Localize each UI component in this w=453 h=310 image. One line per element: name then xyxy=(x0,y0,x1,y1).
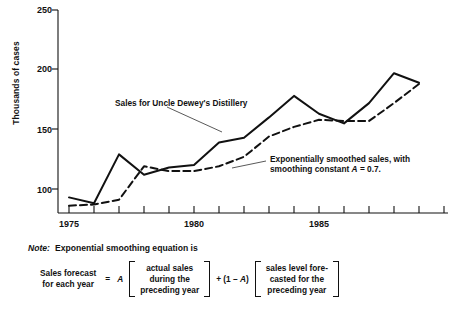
bracket-actual-sales-text: actual sales during the preceding year xyxy=(138,261,201,297)
chart-page: Thousands of cases 250 200 150 100 1975 … xyxy=(0,0,453,310)
equation-equals: = xyxy=(105,274,110,284)
equation-lhs: Sales forecast for each year xyxy=(40,268,96,290)
chart-plot-svg xyxy=(0,0,453,240)
bracket2-line2: casted for the xyxy=(270,274,324,284)
bracket-right-open xyxy=(255,261,261,297)
bracket-left-open xyxy=(129,261,135,297)
note-block: Note: Exponential smoothing equation is xyxy=(28,243,198,253)
bracket-forecast-text: sales level fore- casted for the precedi… xyxy=(264,261,330,297)
equation-coefficient: A xyxy=(117,274,123,284)
equation-plus-post: ) xyxy=(246,274,249,284)
smoothed-annotation-label: Exponentially smoothed sales, with smoot… xyxy=(270,154,410,175)
smoothed-annotation-line2-post: = 0.7. xyxy=(358,164,381,174)
sales-annotation-leader-line xyxy=(167,107,222,132)
bracket1-line2: during the xyxy=(149,274,190,284)
smoothed-annotation-line2-pre: smoothing constant xyxy=(270,164,352,174)
bracket2-line1: sales level fore- xyxy=(266,263,328,273)
equation-plus-term: + (1 – A) xyxy=(216,274,249,284)
smoothed-annotation-leader-line xyxy=(232,161,266,168)
smoothing-equation: Sales forecast for each year = A actual … xyxy=(40,261,339,297)
equation-plus-pre: + (1 – xyxy=(216,274,240,284)
equation-bracket-forecast: sales level fore- casted for the precedi… xyxy=(255,261,339,297)
bracket1-line1: actual sales xyxy=(146,263,193,273)
note-text: Exponential smoothing equation is xyxy=(55,243,198,253)
bracket1-line3: preceding year xyxy=(140,285,199,295)
equation-bracket-actual-sales: actual sales during the preceding year xyxy=(129,261,210,297)
equation-lhs-line2: for each year xyxy=(42,279,94,289)
x-axis-ticks xyxy=(69,206,444,213)
smoothed-annotation-line1: Exponentially smoothed sales, with xyxy=(270,154,410,164)
sales-annotation-label: Sales for Uncle Dewey's Distillery xyxy=(115,98,247,108)
series-line-actual-sales xyxy=(69,73,419,203)
chart-container: Thousands of cases 250 200 150 100 1975 … xyxy=(0,0,453,240)
note-label: Note: xyxy=(28,243,50,253)
y-axis-ticks xyxy=(52,10,58,189)
bracket-left-close xyxy=(204,261,210,297)
bracket2-line3: preceding year xyxy=(267,285,326,295)
equation-lhs-line1: Sales forecast xyxy=(40,268,96,278)
bracket-right-close xyxy=(333,261,339,297)
